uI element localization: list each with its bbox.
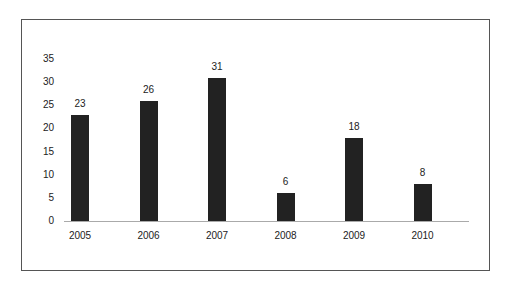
y-tick-label: 25: [34, 99, 54, 110]
bar: [71, 115, 89, 221]
data-label: 6: [266, 176, 306, 187]
data-label: 31: [197, 61, 237, 72]
y-tick-label: 0: [34, 215, 54, 226]
x-tick-label: 2005: [60, 230, 100, 241]
y-tick-label: 30: [34, 76, 54, 87]
y-tick-label: 35: [34, 53, 54, 64]
x-tick-label: 2006: [129, 230, 169, 241]
bar: [414, 184, 432, 221]
data-label: 18: [334, 121, 374, 132]
y-tick-label: 10: [34, 169, 54, 180]
y-tick-label: 15: [34, 146, 54, 157]
x-tick-label: 2009: [334, 230, 374, 241]
x-tick-label: 2007: [197, 230, 237, 241]
bar: [345, 138, 363, 221]
data-label: 23: [60, 98, 100, 109]
x-tick-label: 2008: [266, 230, 306, 241]
bar: [140, 101, 158, 221]
y-tick-label: 5: [34, 192, 54, 203]
data-label: 26: [129, 84, 169, 95]
y-tick-label: 20: [34, 122, 54, 133]
bar: [277, 193, 295, 221]
data-label: 8: [403, 167, 443, 178]
x-axis-line: [64, 221, 469, 222]
x-tick-label: 2010: [403, 230, 443, 241]
bar: [208, 78, 226, 221]
